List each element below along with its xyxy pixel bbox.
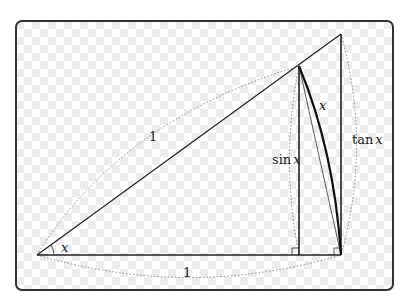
label-sin: sinx — [272, 152, 301, 167]
label-radius-base: 1 — [183, 265, 191, 280]
label-angle: x — [61, 240, 69, 255]
label-sin-fn: sin — [272, 152, 292, 167]
label-tan-var: x — [375, 132, 383, 147]
label-tan: tanx — [352, 132, 383, 147]
label-arc: x — [319, 98, 327, 113]
label-tan-fn: tan — [352, 132, 374, 147]
frame — [16, 21, 393, 290]
label-sin-var: x — [293, 152, 301, 167]
label-radius-hyp: 1 — [149, 129, 157, 144]
trig-inequality-diagram: 1 1 x x sinx tanx — [0, 0, 414, 308]
